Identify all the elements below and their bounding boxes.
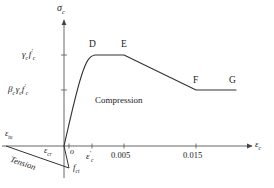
x-axis-label: εc: [255, 140, 261, 151]
x-tick-label-eps-c-prime: ε′c: [86, 150, 93, 163]
x-tick-label-0005: 0.005: [111, 151, 130, 160]
tension-cracking-strain-label: εcr: [44, 146, 52, 157]
point-label-G: G: [229, 76, 236, 86]
y-tick-label-beta-gamma-fc: βc γcf′c: [8, 83, 28, 96]
tensile-strength-label: fct: [73, 163, 80, 174]
curve-canvas: [0, 0, 274, 188]
y-axis-label: σc: [57, 3, 65, 15]
origin-label: o: [70, 148, 74, 156]
point-label-D: D: [89, 40, 96, 50]
point-label-F: F: [193, 76, 198, 86]
x-tick-label-0015: 0.015: [183, 151, 202, 160]
stress-strain-figure: σc γc f′c βc γcf′c o ε′c 0.005 0.015 εc …: [0, 0, 274, 188]
compression-region-label: Compression: [95, 96, 143, 105]
y-tick-label-gamma-fc: γc f′c: [22, 48, 35, 61]
tension-ultimate-strain-label: εtu: [5, 129, 12, 140]
compression-curve: [64, 55, 236, 146]
point-label-E: E: [121, 40, 127, 50]
